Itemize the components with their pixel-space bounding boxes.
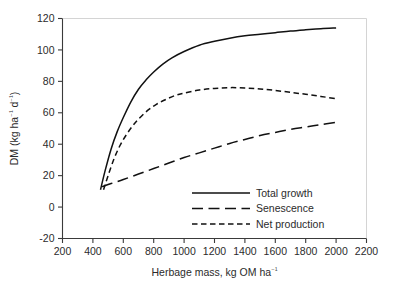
y-axis-ticks bbox=[58, 19, 63, 239]
legend-label-net-production: Net production bbox=[256, 218, 324, 230]
x-axis-title: Herbage mass, kg OM ha⁻¹ bbox=[151, 266, 278, 278]
y-axis-title: DM (kg ha⁻¹ d⁻¹) bbox=[8, 92, 20, 166]
y-tick-label: 0 bbox=[49, 201, 55, 213]
y-tick-label: 80 bbox=[43, 75, 55, 87]
series-senescence bbox=[102, 122, 336, 186]
y-tick-label: 40 bbox=[43, 138, 55, 150]
x-axis-tick-labels: 2004006008001000120014001600180020002200 bbox=[54, 245, 379, 257]
y-tick-label: 120 bbox=[37, 12, 55, 24]
legend-label-total-growth: Total growth bbox=[256, 187, 313, 199]
x-tick-label: 1000 bbox=[172, 245, 196, 257]
y-tick-label: 100 bbox=[37, 44, 55, 56]
legend-label-senescence: Senescence bbox=[256, 202, 314, 214]
line-chart: 2004006008001000120014001600180020002200… bbox=[0, 0, 398, 288]
figure-container: 2004006008001000120014001600180020002200… bbox=[0, 0, 398, 288]
y-tick-label: 60 bbox=[43, 106, 55, 118]
plot-box-edges bbox=[63, 19, 367, 239]
x-tick-label: 1400 bbox=[233, 245, 257, 257]
data-series-group bbox=[101, 28, 337, 190]
x-tick-label: 200 bbox=[54, 245, 72, 257]
x-tick-label: 2200 bbox=[355, 245, 379, 257]
y-tick-label: -20 bbox=[39, 232, 54, 244]
x-tick-label: 800 bbox=[145, 245, 163, 257]
x-tick-label: 2000 bbox=[324, 245, 348, 257]
x-tick-label: 400 bbox=[84, 245, 102, 257]
x-tick-label: 1800 bbox=[294, 245, 318, 257]
x-tick-label: 1600 bbox=[264, 245, 288, 257]
x-tick-label: 1200 bbox=[203, 245, 227, 257]
axis-lines bbox=[63, 19, 367, 239]
chart-legend: Total growthSenescenceNet production bbox=[192, 187, 324, 230]
y-tick-label: 20 bbox=[43, 169, 55, 181]
series-total-growth bbox=[101, 28, 337, 190]
x-axis-ticks bbox=[63, 239, 367, 244]
y-axis-tick-labels: -20020406080100120 bbox=[37, 12, 55, 244]
x-tick-label: 600 bbox=[115, 245, 133, 257]
plot-frame bbox=[63, 19, 367, 239]
